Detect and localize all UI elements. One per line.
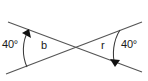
- variable-label-b: b: [41, 40, 47, 51]
- angle-label-right: 40°: [121, 39, 137, 50]
- geometry-diagram: 40° b r 40°: [0, 0, 148, 81]
- angle-label-left: 40°: [2, 39, 18, 50]
- variable-label-r: r: [101, 40, 105, 51]
